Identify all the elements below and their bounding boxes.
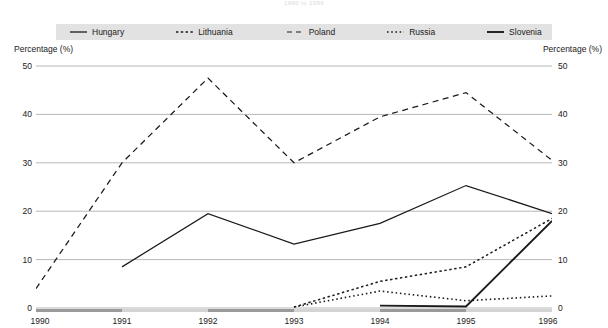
chart-title: 1990 to 1996 xyxy=(0,0,608,6)
y-tick-right-10: 10 xyxy=(558,255,580,265)
legend-label-slovenia: Slovenia xyxy=(509,28,542,37)
legend-item-hungary: Hungary xyxy=(70,24,124,40)
y-tick-right-0: 0 xyxy=(558,303,580,313)
right-axis-caption: Percentage (%) xyxy=(543,44,602,54)
legend-label-hungary: Hungary xyxy=(92,28,124,37)
axis-band-segment xyxy=(36,309,122,312)
legend-item-lithuania: Lithuania xyxy=(176,24,233,40)
x-tick-1995: 1995 xyxy=(446,316,486,326)
legend-item-poland: Poland xyxy=(287,24,335,40)
axis-band-segment xyxy=(122,309,208,312)
plot-area xyxy=(36,60,552,312)
x-tick-1992: 1992 xyxy=(188,316,228,326)
x-tick-1993: 1993 xyxy=(274,316,314,326)
y-tick-left-40: 40 xyxy=(10,109,32,119)
y-tick-right-30: 30 xyxy=(558,158,580,168)
legend-label-russia: Russia xyxy=(409,28,435,37)
x-tick-1991: 1991 xyxy=(102,316,142,326)
chart-legend: Hungary Lithuania Poland Russia Slovenia xyxy=(56,24,552,40)
legend-item-russia: Russia xyxy=(387,24,435,40)
left-axis-caption: Percentage (%) xyxy=(14,44,73,54)
legend-label-poland: Poland xyxy=(309,28,335,37)
y-tick-left-10: 10 xyxy=(10,255,32,265)
legend-item-slovenia: Slovenia xyxy=(487,24,542,40)
series-line-poland xyxy=(36,78,552,289)
axis-band-segment xyxy=(466,309,552,312)
y-tick-left-50: 50 xyxy=(10,61,32,71)
y-tick-right-20: 20 xyxy=(558,206,580,216)
y-tick-right-40: 40 xyxy=(558,109,580,119)
legend-label-lithuania: Lithuania xyxy=(198,28,233,37)
axis-band-segment xyxy=(294,309,380,312)
thick-solid-line-icon xyxy=(487,28,504,36)
x-tick-1996: 1996 xyxy=(528,316,568,326)
line-chart: 1990 to 1996 Hungary Lithuania Poland Ru… xyxy=(0,0,608,328)
y-tick-left-20: 20 xyxy=(10,206,32,216)
fine-dotted-line-icon xyxy=(387,28,404,36)
series-line-russia xyxy=(294,291,552,307)
y-tick-left-0: 0 xyxy=(10,303,32,313)
y-tick-left-30: 30 xyxy=(10,158,32,168)
axis-band-segment xyxy=(208,309,294,312)
solid-line-icon xyxy=(70,28,87,36)
plot-svg xyxy=(36,60,552,312)
dotted-line-icon xyxy=(176,28,193,36)
y-tick-right-50: 50 xyxy=(558,61,580,71)
series-line-lithuania xyxy=(294,218,552,307)
x-tick-1994: 1994 xyxy=(360,316,400,326)
dashed-line-icon xyxy=(287,28,304,36)
x-tick-1990: 1990 xyxy=(20,316,60,326)
axis-band-segment xyxy=(380,309,466,312)
